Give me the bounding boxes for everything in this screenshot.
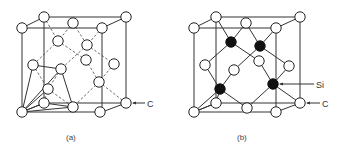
crystal-structure-figure: C (a) bbox=[0, 0, 345, 154]
panel-a-diagram: C (a) bbox=[17, 12, 154, 142]
panel-b-carbon-label: C bbox=[306, 99, 329, 109]
caption-a: (a) bbox=[66, 133, 76, 142]
si-atom bbox=[268, 79, 278, 89]
si-atom bbox=[226, 37, 236, 47]
panel-b-diagram: Si C (b) bbox=[189, 12, 329, 142]
panel-b-silicon-label: Si bbox=[279, 80, 324, 90]
silicon-label-b: Si bbox=[316, 80, 324, 90]
carbon-label-a: C bbox=[147, 99, 154, 109]
caption-b: (b) bbox=[237, 133, 247, 142]
panel-a-carbon-label: C bbox=[132, 99, 154, 109]
si-atom bbox=[215, 84, 225, 94]
si-atom bbox=[255, 41, 265, 51]
carbon-label-b: C bbox=[322, 99, 329, 109]
